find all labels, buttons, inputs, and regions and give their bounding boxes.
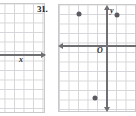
plotted-point <box>93 96 98 101</box>
y-axis-line <box>106 9 108 108</box>
y-axis-arrow-down <box>104 107 110 112</box>
x-axis-label-left-figure: x <box>19 56 23 64</box>
plotted-point <box>77 12 82 17</box>
figure-page: x 31. y O <box>0 0 136 116</box>
x-axis-arrow-left <box>58 43 63 49</box>
plotted-point <box>115 13 120 18</box>
y-axis-label: y <box>110 7 114 15</box>
origin-label: O <box>97 47 103 55</box>
coordinate-grid: y O <box>58 4 136 112</box>
problem-number: 31. <box>37 5 48 14</box>
x-axis-arrow-right-left-figure <box>41 52 46 58</box>
